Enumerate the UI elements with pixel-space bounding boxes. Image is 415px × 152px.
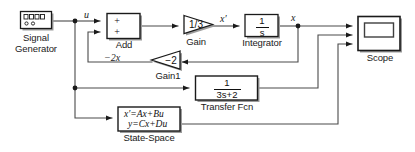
transfer-fcn-numerator: 1 (206, 78, 248, 88)
junction-dot-c (296, 24, 301, 29)
scope-screen-icon (365, 23, 394, 37)
gain1-label: Gain1 (146, 70, 190, 81)
scope-block[interactable] (358, 17, 402, 53)
signal-generator-label-line2: Generator (6, 43, 66, 54)
diagram-wires-and-shapes (0, 0, 415, 152)
signal-label-x-prime: x′ (220, 13, 227, 24)
gain1-value: −2 (162, 55, 180, 66)
add-port2-sign: + (112, 26, 122, 37)
signal-generator-label-line1: Signal (6, 32, 66, 43)
gain-value: 1/3 (186, 19, 206, 30)
transfer-fcn-label: Transfer Fcn (192, 101, 262, 112)
block-diagram-canvas: + + Signal Generator Add 1/3 Gain 1 s In… (0, 0, 415, 152)
integrator-numerator: 1 (252, 16, 272, 26)
state-space-equation-line2: y=Cx+Du (128, 119, 167, 130)
wire-junctionB-to-statespace-in (75, 88, 112, 118)
scope-label: Scope (358, 52, 402, 63)
junction-dot-a (73, 19, 78, 24)
add-port1-sign: + (112, 15, 122, 26)
transfer-fcn-transfer-function: 1 3s+2 (206, 78, 248, 100)
junction-dot-b (73, 86, 78, 91)
signal-generator-block[interactable] (21, 12, 54, 31)
signal-label-x: x (291, 12, 295, 23)
transfer-fcn-denominator: 3s+2 (206, 90, 248, 100)
signal-label-u: u (84, 9, 89, 20)
state-space-label: State-Space (114, 132, 184, 143)
signal-label-minus-two-x: −2x (104, 52, 120, 63)
gain-label: Gain (178, 36, 214, 47)
integrator-label: Integrator (236, 37, 288, 48)
integrator-transfer-function: 1 s (252, 16, 272, 38)
add-label: Add (103, 39, 145, 50)
